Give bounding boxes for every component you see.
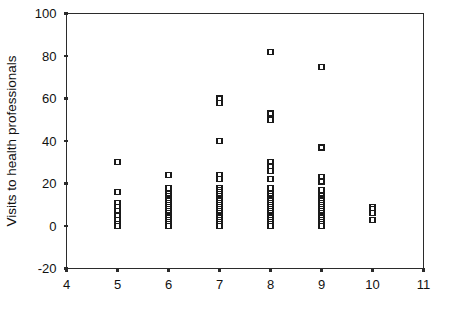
data-point-marker xyxy=(319,179,324,184)
y-tick-label: 20 xyxy=(42,176,56,191)
data-point-marker xyxy=(217,100,222,105)
data-point-marker xyxy=(268,168,273,173)
data-point-marker xyxy=(319,64,324,69)
x-tick-label: 10 xyxy=(365,277,379,292)
data-point-marker xyxy=(268,185,273,190)
y-tick-label: -20 xyxy=(38,261,57,276)
x-tick-label: 4 xyxy=(63,277,70,292)
data-point-marker xyxy=(268,224,273,229)
data-point-marker xyxy=(166,224,171,229)
y-tick-label: 60 xyxy=(42,91,56,106)
data-point-marker xyxy=(370,217,375,222)
data-point-marker xyxy=(115,224,120,229)
data-point-marker xyxy=(268,177,273,182)
data-point-marker xyxy=(319,187,324,192)
y-axis-title: Visits to health professionals xyxy=(4,55,19,226)
x-tick-group: 4567891011 xyxy=(63,268,430,292)
data-point-marker xyxy=(268,111,273,116)
axis-group xyxy=(67,13,425,269)
x-tick-label: 7 xyxy=(216,277,223,292)
y-tick-label: 80 xyxy=(42,49,56,64)
data-point-marker xyxy=(217,224,222,229)
scatter-plot-figure: -20020406080100 4567891011 Visits to hea… xyxy=(0,0,450,315)
data-point-group xyxy=(115,49,375,228)
data-point-marker xyxy=(217,177,222,182)
x-tick-label: 9 xyxy=(318,277,325,292)
data-point-marker xyxy=(268,49,273,54)
data-point-marker xyxy=(319,224,324,229)
y-tick-label: 100 xyxy=(35,6,57,21)
y-tick-label: 40 xyxy=(42,134,56,149)
x-tick-label: 8 xyxy=(267,277,274,292)
x-tick-label: 5 xyxy=(114,277,121,292)
data-point-marker xyxy=(268,117,273,122)
data-point-marker xyxy=(319,145,324,150)
data-point-marker xyxy=(166,185,171,190)
data-point-marker xyxy=(217,139,222,144)
y-tick-group: -20020406080100 xyxy=(35,6,68,276)
data-point-marker xyxy=(115,160,120,165)
data-point-marker xyxy=(370,211,375,216)
data-point-marker xyxy=(115,190,120,195)
chart-canvas: -20020406080100 4567891011 Visits to hea… xyxy=(0,0,450,315)
x-tick-label: 6 xyxy=(165,277,172,292)
y-tick-label: 0 xyxy=(49,219,56,234)
x-tick-label: 11 xyxy=(417,277,431,292)
data-point-marker xyxy=(166,173,171,178)
